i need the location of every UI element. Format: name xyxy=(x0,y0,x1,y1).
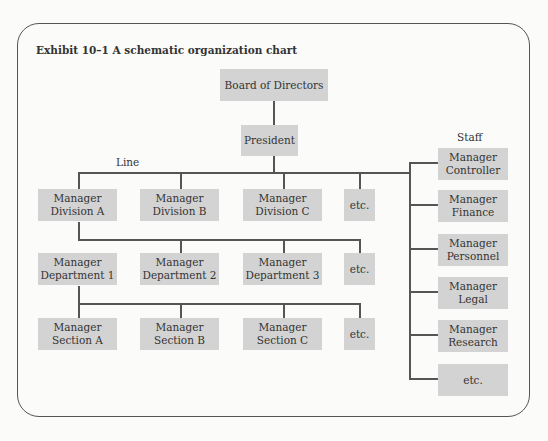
section-c-drop xyxy=(283,303,285,318)
exhibit-title: Exhibit 10–1 A schematic organization ch… xyxy=(36,44,297,56)
box-subtitle: Section C xyxy=(257,334,308,347)
box-subtitle: Department 1 xyxy=(40,269,114,282)
section-box: ManagerSection C xyxy=(243,318,322,350)
division-a-drop xyxy=(78,172,80,189)
staff-box: ManagerResearch xyxy=(438,320,508,352)
staff-connector xyxy=(409,204,438,206)
division-box: ManagerDivision A xyxy=(38,189,117,221)
division-etc-drop xyxy=(359,172,361,189)
section-box: ManagerSection B xyxy=(140,318,219,350)
division-a-down xyxy=(78,222,80,240)
staff-box: ManagerFinance xyxy=(438,190,508,222)
box-title: Manager xyxy=(142,256,216,269)
staff-box: ManagerPersonnel xyxy=(438,234,508,266)
section-b-drop xyxy=(180,303,182,318)
box-subtitle: Division B xyxy=(153,205,207,218)
department-1-down xyxy=(78,286,80,304)
department-2-drop xyxy=(180,239,182,253)
president-down-connector xyxy=(273,156,275,173)
box-title: etc. xyxy=(350,199,370,212)
box-subtitle: Finance xyxy=(449,206,497,219)
staff-box: ManagerController xyxy=(438,148,508,180)
box-title: Manager xyxy=(449,193,497,206)
staff-box: ManagerLegal xyxy=(438,277,508,309)
division-box: ManagerDivision B xyxy=(140,189,219,221)
box-title: etc. xyxy=(463,374,483,387)
line-label: Line xyxy=(116,156,139,168)
box-subtitle: Division A xyxy=(51,205,105,218)
box-subtitle: Section A xyxy=(52,334,103,347)
division-c-drop xyxy=(283,172,285,189)
president-box: President xyxy=(241,125,298,156)
division-bus xyxy=(78,172,411,174)
department-box: ManagerDepartment 1 xyxy=(38,253,117,285)
box-title: Manager xyxy=(449,280,497,293)
staff-connector xyxy=(409,291,438,293)
section-box: etc. xyxy=(344,318,375,350)
box-subtitle: Section B xyxy=(154,334,205,347)
staff-connector xyxy=(409,248,438,250)
department-box: ManagerDepartment 3 xyxy=(243,253,322,285)
box-title: Manager xyxy=(40,256,114,269)
section-bus xyxy=(78,303,361,305)
staff-label: Staff xyxy=(457,131,482,143)
department-box: ManagerDepartment 2 xyxy=(140,253,219,285)
box-title: Manager xyxy=(447,237,500,250)
box-subtitle: Controller xyxy=(446,164,501,177)
box-subtitle: Department 2 xyxy=(142,269,216,282)
staff-box: etc. xyxy=(438,364,508,396)
box-title: Manager xyxy=(153,192,207,205)
box-title: Manager xyxy=(154,321,205,334)
staff-connector xyxy=(409,334,438,336)
box-subtitle: Department 3 xyxy=(245,269,319,282)
box-title: Manager xyxy=(51,192,105,205)
box-subtitle: Personnel xyxy=(447,250,500,263)
box-title: Manager xyxy=(448,323,498,336)
board-president-connector xyxy=(273,101,275,125)
box-title: Manager xyxy=(245,256,319,269)
department-etc-drop xyxy=(359,239,361,253)
department-3-drop xyxy=(283,239,285,253)
staff-connector xyxy=(409,162,438,164)
staff-spine xyxy=(409,163,411,379)
section-a-drop xyxy=(78,303,80,318)
box-title: Manager xyxy=(446,151,501,164)
box-subtitle: Research xyxy=(448,336,498,349)
division-box: ManagerDivision C xyxy=(243,189,322,221)
board-of-directors-box: Board of Directors xyxy=(220,69,328,101)
box-title: Manager xyxy=(257,321,308,334)
box-subtitle: Division C xyxy=(255,205,309,218)
box-title: etc. xyxy=(350,328,370,341)
section-box: ManagerSection A xyxy=(38,318,117,350)
division-box: etc. xyxy=(344,189,375,221)
staff-connector xyxy=(409,378,438,380)
box-title: Manager xyxy=(255,192,309,205)
department-bus xyxy=(78,239,361,241)
department-box: etc. xyxy=(344,253,375,285)
box-title: etc. xyxy=(350,263,370,276)
section-etc-drop xyxy=(359,303,361,318)
box-title: Manager xyxy=(52,321,103,334)
division-b-drop xyxy=(180,172,182,189)
box-subtitle: Legal xyxy=(449,293,497,306)
